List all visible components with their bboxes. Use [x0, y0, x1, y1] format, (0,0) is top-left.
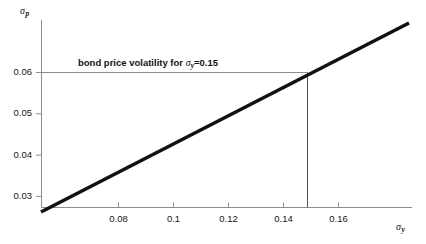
y-tick-label-2: 0.04 [4, 150, 32, 160]
x-tick-label-0: 0.08 [96, 214, 141, 224]
x-axis-title-subscript: y [401, 225, 405, 234]
x-tick-label-1: 0.1 [151, 214, 196, 224]
chart-screenshot: 0.06 0.05 0.04 0.03 0.08 0.1 0.12 0.14 0… [0, 0, 426, 244]
y-axis-title-subscript: p [25, 9, 29, 18]
x-tick-label-3: 0.14 [261, 214, 306, 224]
x-axis-ticks [119, 203, 339, 208]
y-axis-ticks [36, 73, 42, 197]
volatility-curve [41, 23, 409, 212]
bond-price-volatility-chart [0, 0, 426, 244]
y-axis-title: σp [20, 6, 29, 18]
annotation-bond-price-volatility: bond price volatility for σy=0.15 [78, 58, 218, 70]
x-tick-label-2: 0.12 [206, 214, 251, 224]
annotation-prefix: bond price volatility for [78, 57, 186, 68]
y-tick-label-1: 0.05 [4, 108, 32, 118]
y-tick-label-0: 0.06 [4, 67, 32, 77]
y-tick-label-3: 0.03 [4, 191, 32, 201]
x-axis-title: σy [396, 222, 405, 234]
annotation-suffix: =0.15 [194, 57, 218, 68]
x-tick-label-4: 0.16 [316, 214, 361, 224]
